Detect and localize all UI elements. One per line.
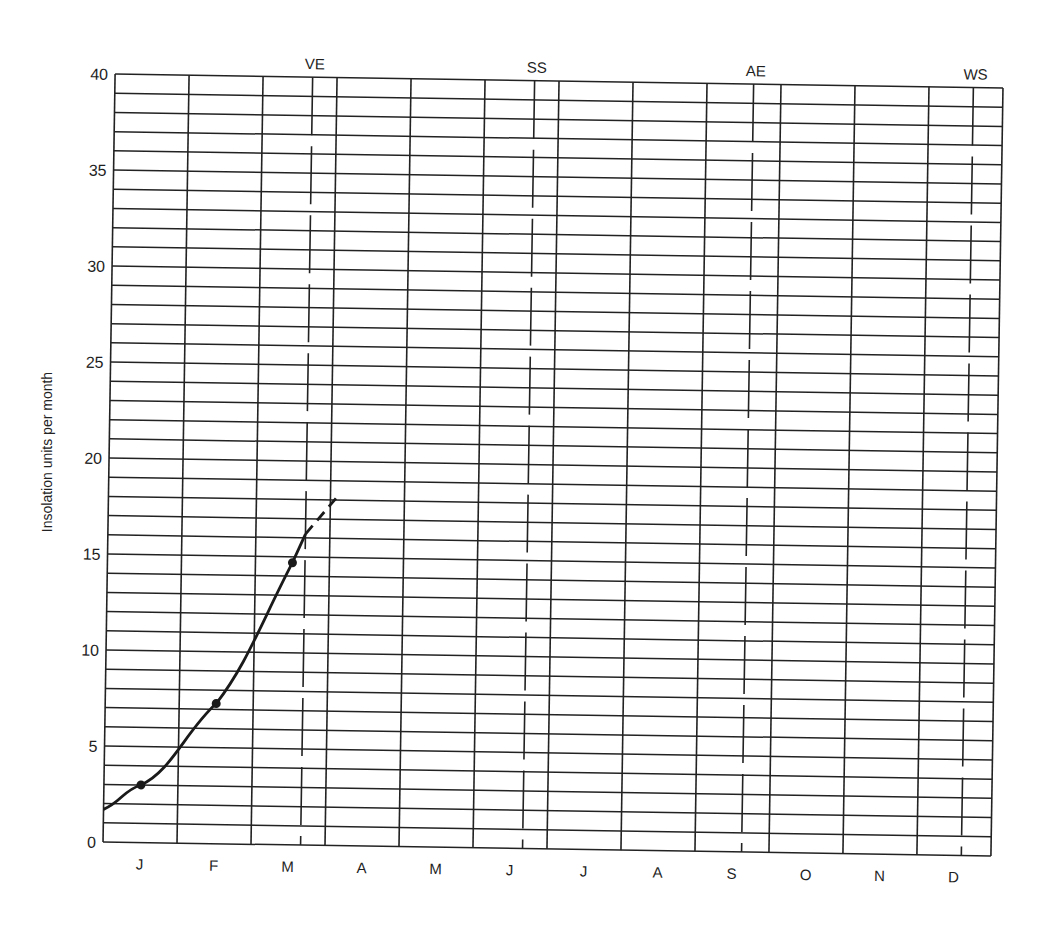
insolation-chart: 0510152025303540JFMAMJJASONDVESSAEWS Ins… xyxy=(0,0,1054,931)
x-tick-label: M xyxy=(429,860,442,877)
x-tick-label: F xyxy=(209,857,218,874)
y-tick-label: 40 xyxy=(90,66,108,83)
annotation-label-ae: AE xyxy=(746,62,766,79)
plot-area: 0510152025303540JFMAMJJASONDVESSAEWS xyxy=(78,52,1004,886)
data-point xyxy=(136,780,145,789)
y-tick-label: 15 xyxy=(83,546,101,563)
x-tick-label: A xyxy=(357,859,367,876)
y-tick-label: 10 xyxy=(81,642,99,659)
annotation-label-ve: VE xyxy=(305,55,325,72)
x-tick-label: J xyxy=(506,861,514,878)
y-tick-label: 30 xyxy=(87,258,105,275)
x-tick-label: O xyxy=(800,866,812,883)
y-tick-label: 25 xyxy=(86,354,104,371)
x-tick-label: A xyxy=(652,864,662,881)
y-tick-label: 35 xyxy=(89,162,107,179)
x-tick-label: D xyxy=(948,868,959,885)
y-tick-label: 20 xyxy=(84,450,102,467)
y-tick-label: 0 xyxy=(87,834,96,851)
x-tick-label: J xyxy=(580,862,588,879)
annotation-label-ws: WS xyxy=(963,65,987,82)
annotation-label-ss: SS xyxy=(527,59,547,76)
y-tick-label: 5 xyxy=(88,738,97,755)
y-axis-title: Insolation units per month xyxy=(39,372,55,532)
cropped-caption xyxy=(470,918,481,931)
x-tick-label: J xyxy=(136,855,144,872)
x-tick-label: S xyxy=(726,865,736,882)
x-tick-label: M xyxy=(281,858,294,875)
x-tick-label: N xyxy=(874,867,885,884)
chart-plot: 0510152025303540JFMAMJJASONDVESSAEWS xyxy=(0,0,1054,931)
